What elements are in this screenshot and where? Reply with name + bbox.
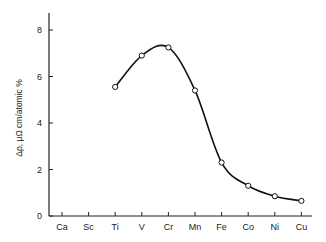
data-curve (115, 45, 301, 201)
data-point-marker (272, 194, 277, 199)
x-tick-label: Ni (271, 222, 280, 232)
x-axis: CaScTiVCrMnFeCoNiCu (49, 212, 312, 232)
y-axis-label: Δρ, μΩ cm/atomic % (14, 79, 24, 157)
x-tick-label: Sc (83, 222, 94, 232)
data-point-marker (246, 183, 251, 188)
x-tick-label: Co (242, 222, 254, 232)
y-tick-label: 6 (37, 72, 42, 82)
chart: 02468 CaScTiVCrMnFeCoNiCu Δρ, μΩ cm/atom… (0, 0, 326, 242)
data-point-marker (139, 53, 144, 58)
y-tick-label: 8 (37, 25, 42, 35)
y-axis: 02468 (37, 13, 53, 221)
x-tick-label: Ti (112, 222, 119, 232)
x-tick-label: Cu (296, 222, 308, 232)
x-tick-label: Ca (56, 222, 68, 232)
data-point-marker (219, 160, 224, 165)
y-tick-label: 4 (37, 118, 42, 128)
x-tick-label: V (139, 222, 145, 232)
x-tick-label: Mn (189, 222, 202, 232)
data-point-marker (192, 88, 197, 93)
y-tick-label: 2 (37, 165, 42, 175)
data-markers (113, 45, 304, 204)
data-point-marker (166, 45, 171, 50)
data-point-marker (113, 84, 118, 89)
y-tick-label: 0 (37, 211, 42, 221)
data-point-marker (299, 198, 304, 203)
x-tick-label: Cr (164, 222, 174, 232)
x-tick-label: Fe (216, 222, 227, 232)
